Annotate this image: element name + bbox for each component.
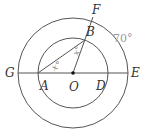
label-B: B: [85, 25, 95, 39]
center-point-O: [71, 71, 75, 75]
label-E: E: [130, 66, 140, 80]
geometry-diagram: G A O D E B F x° x° 70°: [0, 0, 147, 137]
label-F: F: [91, 3, 101, 17]
label-O: O: [69, 80, 79, 94]
arc-label-70: 70°: [113, 32, 133, 45]
angle-label-B: x°: [71, 44, 84, 57]
label-D: D: [95, 79, 106, 93]
label-A: A: [39, 79, 49, 93]
label-G: G: [5, 66, 15, 80]
angle-label-A: x°: [50, 59, 64, 73]
